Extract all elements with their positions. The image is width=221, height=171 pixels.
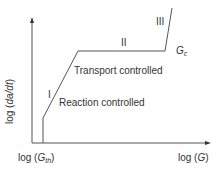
x-axis	[32, 141, 211, 145]
region-i-description: Reaction controlled	[59, 98, 145, 108]
region-ii-numeral: II	[121, 38, 127, 48]
x-threshold-label: log (Gth)	[18, 153, 54, 164]
region-iii-numeral: III	[156, 17, 164, 27]
region-ii-description: Transport controlled	[74, 66, 163, 76]
diagram-graphics	[0, 0, 221, 171]
crack-growth-diagram: log (da/dt) log (Gth) log (G) Gc I React…	[0, 0, 221, 171]
region-i-numeral: I	[48, 90, 51, 100]
critical-g-label: Gc	[176, 46, 187, 57]
y-axis	[30, 17, 34, 143]
x-axis-arrow-icon	[205, 141, 211, 145]
y-axis-label: log (da/dt)	[4, 79, 15, 124]
x-axis-label: log (G)	[178, 153, 209, 163]
y-axis-arrow-icon	[30, 17, 34, 23]
